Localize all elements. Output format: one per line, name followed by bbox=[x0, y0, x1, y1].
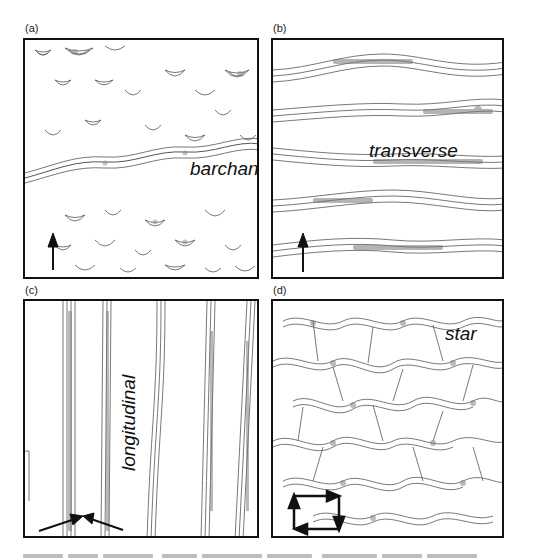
dune-type-label-transverse: transverse bbox=[369, 140, 458, 162]
panel-barchan: barchan bbox=[23, 38, 259, 279]
panel-label-a: (a) bbox=[25, 22, 38, 34]
panel-transverse: transverse bbox=[271, 38, 504, 279]
panel-label-d: (d) bbox=[273, 284, 286, 296]
star-dune-network bbox=[273, 317, 504, 524]
wind-arrows-multidirectional bbox=[289, 491, 344, 534]
wind-arrow-north bbox=[298, 233, 308, 272]
dune-type-label-barchan: barchan bbox=[190, 158, 259, 180]
panel-star: star bbox=[271, 299, 504, 538]
dune-type-label-star: star bbox=[445, 323, 477, 345]
panel-longitudinal: longitudinal bbox=[23, 299, 259, 538]
longitudinal-contour-map bbox=[25, 301, 259, 538]
wind-arrow-north bbox=[48, 233, 58, 270]
figure-caption bbox=[23, 546, 513, 554]
dune-type-label-longitudinal: longitudinal bbox=[118, 375, 140, 471]
panel-label-c: (c) bbox=[25, 284, 38, 296]
longitudinal-ridges bbox=[25, 301, 255, 538]
wind-arrows-converging bbox=[39, 513, 123, 531]
panel-label-b: (b) bbox=[273, 22, 286, 34]
